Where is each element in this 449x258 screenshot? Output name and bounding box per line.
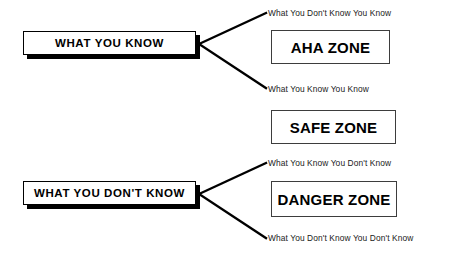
zone-box-danger[interactable]: DANGER ZONE: [271, 181, 397, 217]
zone-box-safe-label: SAFE ZONE: [290, 119, 378, 136]
heading-box-what-you-dont-know-label: WHAT YOU DON'T KNOW: [34, 187, 185, 199]
heading-box-what-you-know-label: WHAT YOU KNOW: [55, 37, 164, 49]
zone-box-aha[interactable]: AHA ZONE: [271, 30, 390, 64]
caption-what-you-know-you-dont-know: What You Know You Don't Know: [268, 158, 391, 168]
caption-what-you-know-you-know: What You Know You Know: [268, 84, 369, 94]
heading-box-what-you-dont-know[interactable]: WHAT YOU DON'T KNOW: [23, 181, 196, 205]
diagram-canvas: WHAT YOU KNOW WHAT YOU DON'T KNOW What Y…: [0, 0, 449, 258]
zone-box-danger-label: DANGER ZONE: [277, 191, 390, 208]
caption-what-you-dont-know-you-dont-know: What You Don't Know You Don't Know: [268, 233, 413, 243]
connector-know-lower: [199, 44, 266, 88]
connector-dontknow-lower: [199, 194, 266, 238]
caption-what-you-dont-know-you-know: What You Don't Know You Know: [268, 8, 391, 18]
zone-box-safe[interactable]: SAFE ZONE: [271, 110, 396, 144]
heading-box-what-you-know[interactable]: WHAT YOU KNOW: [23, 31, 196, 55]
connector-know-upper: [199, 13, 266, 44]
zone-box-aha-label: AHA ZONE: [291, 39, 370, 56]
connector-dontknow-upper: [199, 163, 266, 194]
